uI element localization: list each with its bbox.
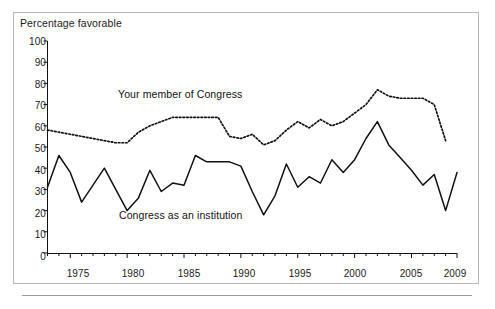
y-axis-ticks	[44, 41, 48, 253]
chart-figure: Percentage favorable 100 90 80 70 60 50 …	[0, 0, 495, 309]
axis-lines	[48, 41, 458, 254]
footer-divider	[22, 295, 472, 296]
chart-plot-area	[0, 0, 495, 309]
series-line-your-member-of-congress	[48, 90, 446, 145]
series-line-congress-as-an-institution	[48, 122, 458, 215]
